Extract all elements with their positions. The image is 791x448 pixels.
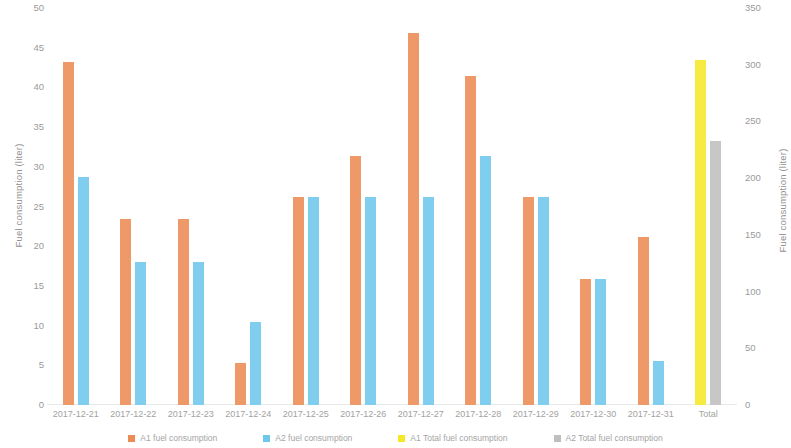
y-axis-left-ticks: 50454035302520151050	[10, 0, 44, 448]
bar-group	[162, 8, 220, 405]
bar-a2	[78, 177, 89, 405]
y-axis-right-tick: 350	[745, 3, 785, 13]
y-axis-left-tick: 20	[10, 241, 44, 251]
chart-legend: A1 fuel consumptionA2 fuel consumptionA1…	[0, 430, 791, 446]
y-axis-right-tick: 200	[745, 173, 785, 183]
bar-group	[680, 8, 738, 405]
legend-item[interactable]: A2 fuel consumption	[263, 433, 352, 443]
y-axis-left-tick: 25	[10, 202, 44, 212]
bar-group	[335, 8, 393, 405]
bar-a2	[480, 156, 491, 405]
y-axis-left-tick: 50	[10, 3, 44, 13]
bar-a2	[423, 197, 434, 405]
bar-a1	[63, 62, 74, 405]
legend-label: A2 fuel consumption	[275, 433, 352, 443]
bar-a1	[293, 197, 304, 405]
bar-a1	[580, 279, 591, 405]
bar-group	[565, 8, 623, 405]
legend-swatch-icon	[128, 435, 135, 442]
legend-item[interactable]: A1 Total fuel consumption	[398, 433, 507, 443]
bar-group	[220, 8, 278, 405]
bar-group	[450, 8, 508, 405]
y-axis-left-tick: 30	[10, 162, 44, 172]
bar-a2	[308, 197, 319, 405]
y-axis-left-tick: 5	[10, 360, 44, 370]
bar-group	[105, 8, 163, 405]
bar-a1	[408, 33, 419, 405]
fuel-consumption-bar-chart: Fuel consumption (liter) Fuel consumptio…	[0, 0, 791, 448]
x-axis-tick-label: Total	[674, 408, 744, 420]
y-axis-left-tick: 40	[10, 82, 44, 92]
bar-group	[47, 8, 105, 405]
bar-a2	[193, 262, 204, 405]
bar-group	[507, 8, 565, 405]
legend-item[interactable]: A1 fuel consumption	[128, 433, 217, 443]
y-axis-right-tick: 300	[745, 60, 785, 70]
legend-swatch-icon	[263, 435, 270, 442]
bar-a1	[350, 156, 361, 405]
bar-a2	[135, 262, 146, 405]
y-axis-left-tick: 45	[10, 43, 44, 53]
legend-swatch-icon	[398, 435, 405, 442]
bar-t1	[695, 60, 706, 405]
legend-swatch-icon	[554, 435, 561, 442]
y-axis-right-tick: 150	[745, 230, 785, 240]
bar-a2	[365, 197, 376, 405]
legend-item[interactable]: A2 Total fuel consumption	[554, 433, 663, 443]
bar-a1	[465, 76, 476, 406]
bar-t2	[710, 141, 721, 405]
y-axis-left-tick: 15	[10, 281, 44, 291]
bar-group	[277, 8, 335, 405]
y-axis-right-tick: 100	[745, 287, 785, 297]
y-axis-left-tick: 0	[10, 400, 44, 410]
legend-label: A1 Total fuel consumption	[410, 433, 507, 443]
bar-a2	[538, 197, 549, 405]
y-axis-right-tick: 50	[745, 343, 785, 353]
bar-a1	[178, 219, 189, 405]
bar-a1	[523, 197, 534, 405]
y-axis-left-tick: 35	[10, 122, 44, 132]
bar-a1	[235, 363, 246, 405]
legend-label: A1 fuel consumption	[140, 433, 217, 443]
bar-group	[392, 8, 450, 405]
bar-a2	[250, 322, 261, 405]
y-axis-right-tick: 250	[745, 116, 785, 126]
bar-a1	[638, 237, 649, 405]
y-axis-right-tick: 0	[745, 400, 785, 410]
bar-a2	[595, 279, 606, 405]
y-axis-left-tick: 10	[10, 321, 44, 331]
bar-a2	[653, 361, 664, 405]
y-axis-right-ticks: 350300250200150100500	[745, 0, 785, 448]
bar-a1	[120, 219, 131, 405]
x-axis-tick-labels: 2017-12-212017-12-222017-12-232017-12-24…	[47, 408, 737, 424]
plot-area	[47, 8, 737, 405]
bar-group	[622, 8, 680, 405]
legend-label: A2 Total fuel consumption	[566, 433, 663, 443]
